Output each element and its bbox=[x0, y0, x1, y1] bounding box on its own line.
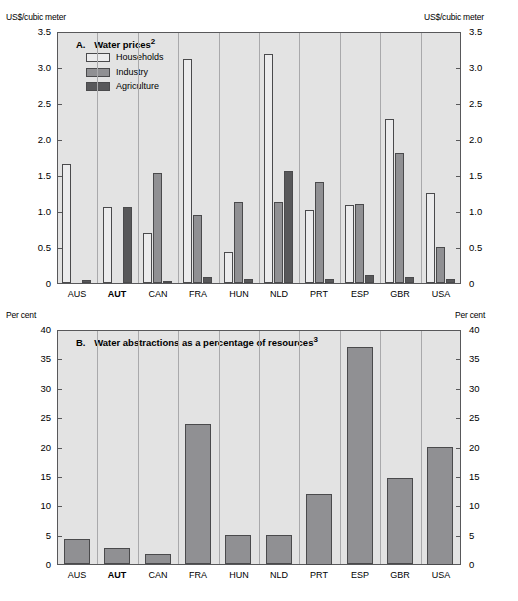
category-label-can: CAN bbox=[138, 570, 178, 580]
bar-gbr-industry bbox=[395, 153, 404, 283]
category-separator bbox=[421, 33, 422, 283]
category-separator bbox=[380, 33, 381, 283]
y-tick-mark-left bbox=[58, 104, 62, 105]
bar-usa-industry bbox=[436, 247, 445, 283]
y-tick-mark-left bbox=[58, 506, 62, 507]
category-separator bbox=[178, 33, 179, 283]
y-tick-mark-right bbox=[456, 68, 460, 69]
y-tick-label-right: 5 bbox=[469, 530, 503, 541]
bar-esp-agriculture bbox=[365, 275, 374, 283]
y-tick-label-right: 25 bbox=[469, 412, 503, 423]
bar-esp-households bbox=[345, 205, 354, 283]
y-tick-mark-left bbox=[58, 477, 62, 478]
y-tick-label-left: 1.0 bbox=[19, 206, 51, 217]
y-tick-mark-left bbox=[58, 418, 62, 419]
y-tick-label-right: 2.0 bbox=[469, 134, 503, 145]
y-tick-label-right: 40 bbox=[469, 324, 503, 335]
y-tick-label-left: 30 bbox=[19, 383, 51, 394]
bar-aut-water abstractions bbox=[104, 548, 130, 564]
y-tick-mark-right bbox=[456, 389, 460, 390]
bar-hun-households bbox=[224, 252, 233, 283]
y-tick-mark-left bbox=[58, 140, 62, 141]
y-tick-label-left: 15 bbox=[19, 471, 51, 482]
panel-a-title-label: A. bbox=[76, 39, 86, 50]
y-tick-mark-left bbox=[58, 448, 62, 449]
panel-b-unit-right: Per cent bbox=[455, 310, 485, 320]
y-tick-mark-right bbox=[456, 418, 460, 419]
y-tick-label-right: 0 bbox=[469, 278, 503, 289]
figure-root: US$/cubic meter US$/cubic meter A. Water… bbox=[0, 0, 518, 601]
bar-can-water abstractions bbox=[145, 554, 171, 564]
category-label-usa: USA bbox=[421, 289, 461, 299]
category-label-nld: NLD bbox=[259, 289, 299, 299]
bar-prt-households bbox=[305, 210, 314, 283]
panel-a-unit-left: US$/cubic meter bbox=[6, 12, 66, 22]
bar-nld-households bbox=[264, 54, 273, 283]
bar-fra-households bbox=[183, 59, 192, 283]
category-label-gbr: GBR bbox=[380, 289, 420, 299]
y-tick-mark-right bbox=[456, 448, 460, 449]
y-tick-label-left: 40 bbox=[19, 324, 51, 335]
y-tick-label-right: 20 bbox=[469, 442, 503, 453]
y-tick-label-right: 30 bbox=[469, 383, 503, 394]
y-tick-mark-right bbox=[456, 140, 460, 141]
category-label-prt: PRT bbox=[299, 289, 339, 299]
bar-esp-water abstractions bbox=[347, 347, 373, 564]
category-label-aus: AUS bbox=[57, 289, 97, 299]
bar-fra-agriculture bbox=[203, 277, 212, 283]
bar-usa-agriculture bbox=[446, 279, 455, 283]
bar-aus-water abstractions bbox=[64, 539, 90, 564]
y-tick-label-left: 5 bbox=[19, 530, 51, 541]
category-separator bbox=[219, 331, 220, 564]
category-label-usa: USA bbox=[421, 570, 461, 580]
y-tick-mark-right bbox=[456, 212, 460, 213]
category-label-aut: AUT bbox=[97, 570, 137, 580]
bar-gbr-water abstractions bbox=[387, 478, 413, 564]
y-tick-label-left: 0 bbox=[19, 278, 51, 289]
y-tick-mark-left bbox=[58, 359, 62, 360]
category-label-aus: AUS bbox=[57, 570, 97, 580]
category-label-nld: NLD bbox=[259, 570, 299, 580]
y-tick-label-right: 15 bbox=[469, 471, 503, 482]
y-tick-mark-right bbox=[456, 477, 460, 478]
y-tick-label-right: 1.5 bbox=[469, 170, 503, 181]
y-tick-label-left: 2.5 bbox=[19, 98, 51, 109]
bar-can-industry bbox=[153, 173, 162, 283]
legend-swatch-agriculture bbox=[86, 82, 110, 91]
bar-aut-households bbox=[103, 207, 112, 283]
legend-swatch-households bbox=[86, 53, 110, 62]
y-tick-mark-right bbox=[456, 506, 460, 507]
category-label-fra: FRA bbox=[178, 570, 218, 580]
bar-esp-industry bbox=[355, 204, 364, 283]
y-tick-mark-right bbox=[456, 359, 460, 360]
category-separator bbox=[421, 331, 422, 564]
bar-hun-water abstractions bbox=[225, 535, 251, 564]
y-tick-label-left: 0 bbox=[19, 559, 51, 570]
bar-aut-agriculture bbox=[123, 207, 132, 283]
y-tick-label-right: 3.5 bbox=[469, 26, 503, 37]
category-label-hun: HUN bbox=[219, 570, 259, 580]
y-tick-label-left: 3.0 bbox=[19, 62, 51, 73]
y-tick-mark-right bbox=[456, 248, 460, 249]
category-separator bbox=[259, 33, 260, 283]
category-separator bbox=[340, 33, 341, 283]
bar-aus-households bbox=[62, 164, 71, 283]
bar-usa-households bbox=[426, 193, 435, 283]
bar-hun-industry bbox=[234, 202, 243, 283]
y-tick-label-left: 35 bbox=[19, 353, 51, 364]
category-separator bbox=[138, 33, 139, 283]
legend-label-households: Households bbox=[116, 52, 164, 62]
bar-can-households bbox=[143, 233, 152, 283]
y-tick-label-left: 10 bbox=[19, 500, 51, 511]
category-separator bbox=[299, 33, 300, 283]
y-tick-mark-left bbox=[58, 536, 62, 537]
y-tick-label-left: 25 bbox=[19, 412, 51, 423]
category-label-hun: HUN bbox=[219, 289, 259, 299]
bar-gbr-agriculture bbox=[405, 277, 414, 283]
bar-gbr-households bbox=[385, 119, 394, 283]
panel-a-title-text: Water prices bbox=[94, 39, 151, 50]
y-tick-label-right: 10 bbox=[469, 500, 503, 511]
category-label-fra: FRA bbox=[178, 289, 218, 299]
category-label-esp: ESP bbox=[340, 289, 380, 299]
y-tick-mark-left bbox=[58, 68, 62, 69]
